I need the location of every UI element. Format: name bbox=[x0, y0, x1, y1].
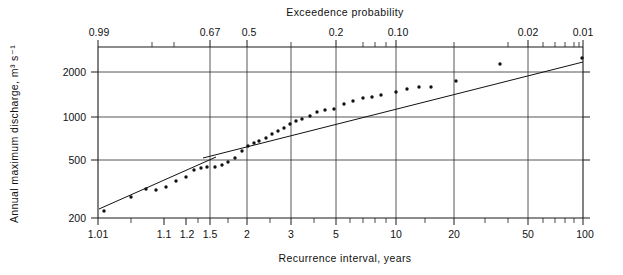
data-point bbox=[220, 163, 223, 166]
data-point bbox=[417, 85, 420, 88]
xlabel-7: 10 bbox=[390, 228, 402, 240]
fit-lines bbox=[99, 62, 583, 209]
data-point bbox=[199, 166, 202, 169]
x-axis-title: Recurrence interval, years bbox=[279, 252, 412, 264]
data-point bbox=[240, 149, 243, 152]
y-axis-title: Annual maximum discharge, m³ s⁻¹ bbox=[8, 45, 20, 223]
top-minor-ticks bbox=[152, 42, 579, 47]
data-point bbox=[270, 132, 273, 135]
ylabel-1: 500 bbox=[68, 154, 86, 166]
data-point bbox=[498, 62, 501, 65]
data-point bbox=[264, 136, 267, 139]
data-point bbox=[332, 107, 335, 110]
horizontal-gridlines bbox=[98, 72, 583, 160]
top-major-ticks bbox=[98, 40, 583, 47]
data-point bbox=[233, 156, 236, 159]
plabel-6: 0.01 bbox=[573, 26, 594, 38]
plabel-4: 0.10 bbox=[388, 26, 409, 38]
data-point bbox=[308, 114, 311, 117]
data-point bbox=[454, 79, 457, 82]
data-point bbox=[192, 168, 195, 171]
data-point bbox=[129, 195, 132, 198]
lower-segment-fit bbox=[99, 157, 216, 209]
data-point bbox=[361, 96, 364, 99]
plabel-0: 0.99 bbox=[89, 26, 110, 38]
upper-segment-fit bbox=[203, 62, 583, 158]
xlabel-10: 100 bbox=[576, 228, 594, 240]
data-point bbox=[288, 122, 291, 125]
data-point bbox=[294, 119, 297, 122]
exceedence-probability-chart: Exceedence probability Recurrence interv… bbox=[0, 0, 623, 275]
xlabel-4: 2 bbox=[244, 228, 250, 240]
data-point bbox=[257, 139, 260, 142]
xlabel-6: 5 bbox=[333, 228, 339, 240]
xlabel-9: 50 bbox=[522, 228, 534, 240]
data-point bbox=[205, 165, 208, 168]
data-point bbox=[351, 99, 354, 102]
data-point bbox=[246, 144, 249, 147]
xlabel-2: 1.2 bbox=[180, 228, 195, 240]
vertical-gridlines bbox=[210, 47, 528, 218]
plabel-2: 0.5 bbox=[242, 26, 257, 38]
data-point bbox=[342, 102, 345, 105]
figure-container: Exceedence probability Recurrence interv… bbox=[0, 0, 623, 275]
data-point bbox=[282, 126, 285, 129]
plabel-1: 0.67 bbox=[200, 26, 221, 38]
plabel-5: 0.02 bbox=[518, 26, 539, 38]
data-point bbox=[429, 85, 432, 88]
data-point bbox=[323, 108, 326, 111]
ylabel-2: 1000 bbox=[63, 111, 87, 123]
ylabel-3: 2000 bbox=[63, 66, 87, 78]
y-tick-labels: 200 500 1000 2000 bbox=[63, 66, 87, 224]
top-tick-labels: 0.99 0.67 0.5 0.2 0.10 0.02 0.01 bbox=[89, 26, 594, 38]
xlabel-1: 1.1 bbox=[157, 228, 172, 240]
xlabel-3: 1.5 bbox=[203, 228, 218, 240]
data-point bbox=[315, 110, 318, 113]
data-point bbox=[405, 87, 408, 90]
data-point bbox=[580, 56, 583, 59]
data-point bbox=[144, 187, 147, 190]
data-point bbox=[184, 175, 187, 178]
xlabel-8: 20 bbox=[448, 228, 460, 240]
data-point bbox=[164, 185, 167, 188]
data-point bbox=[276, 129, 279, 132]
data-point bbox=[379, 93, 382, 96]
data-point bbox=[213, 165, 216, 168]
data-point bbox=[370, 95, 373, 98]
top-axis-title: Exceedence probability bbox=[286, 6, 404, 18]
data-point bbox=[226, 160, 229, 163]
data-point bbox=[394, 90, 397, 93]
data-point bbox=[174, 179, 177, 182]
xlabel-5: 3 bbox=[288, 228, 294, 240]
plot-frame bbox=[98, 47, 583, 218]
bottom-minor-ticks bbox=[131, 218, 574, 223]
data-point bbox=[102, 209, 105, 212]
data-point bbox=[300, 117, 303, 120]
plabel-3: 0.2 bbox=[329, 26, 344, 38]
data-point bbox=[154, 188, 157, 191]
data-point bbox=[252, 141, 255, 144]
xlabel-0: 1.01 bbox=[88, 228, 109, 240]
ylabel-0: 200 bbox=[68, 212, 86, 224]
right-ticks bbox=[583, 72, 590, 218]
left-ticks bbox=[91, 72, 98, 218]
bottom-major-ticks bbox=[98, 218, 583, 225]
bottom-tick-labels: 1.01 1.1 1.2 1.5 2 3 5 10 20 50 100 bbox=[88, 228, 594, 240]
